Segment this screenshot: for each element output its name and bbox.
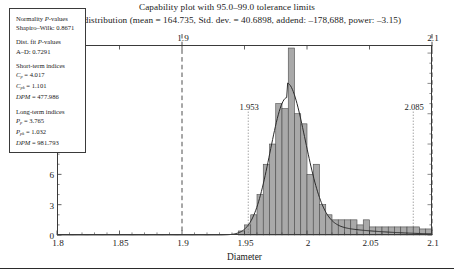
stats-group-heading: Long-term indices: [16, 107, 80, 116]
x-tick-label: 1.8: [52, 238, 63, 248]
capability-plot-figure: Capability plot with 95.0–99.0 tolerance…: [0, 0, 454, 280]
stats-line: Cp = 4.017: [16, 70, 80, 81]
spec-limit-label: 1.953: [240, 102, 259, 112]
x-tick-label: 2.1: [427, 238, 438, 248]
x-axis-label: Diameter: [57, 252, 432, 262]
stats-group-heading: Short-term indices: [16, 61, 80, 70]
stats-group-heading: Dist. fit P-values: [16, 37, 80, 46]
x-tick-label: 1.85: [112, 238, 128, 248]
stats-line: DPM = 981.793: [16, 138, 80, 147]
x-tick-label: 1.95: [237, 238, 253, 248]
y-tick-label: 6: [49, 170, 54, 180]
tolerance-limit-label: 2.1: [427, 33, 438, 43]
stats-line: Shapiro–Wilk: 0.8671: [16, 23, 80, 32]
stats-line: Cpk = 1.101: [16, 81, 80, 92]
stats-line: A–D: 0.7291: [16, 47, 80, 56]
footer-divider: [0, 268, 454, 269]
spec-limit-label: 2.085: [405, 102, 424, 112]
plot-area: Frequency 0369121518 1.81.851.91.9522.05…: [57, 45, 432, 235]
stats-line: Pp = 3.765: [16, 116, 80, 127]
stats-line: DPM = 477.986: [16, 92, 80, 101]
tolerance-limit-label: 1.9: [177, 33, 188, 43]
stats-group-heading: Normality P-values: [16, 14, 80, 23]
x-tick-label: 2: [306, 238, 311, 248]
stats-group-long-term: Long-term indicesPp = 3.765Ppk = 1.032DP…: [16, 107, 80, 148]
x-tick-label: 1.9: [177, 238, 188, 248]
stats-group-dist-fit: Dist. fit P-valuesA–D: 0.7291: [16, 37, 80, 55]
stats-group-normality: Normality P-valuesShapiro–Wilk: 0.8671: [16, 14, 80, 32]
stats-line: Ppk = 1.032: [16, 127, 80, 138]
y-tick-label: 3: [49, 201, 54, 211]
stats-group-short-term: Short-term indicesCp = 4.017Cpk = 1.101D…: [16, 61, 80, 102]
x-tick-label: 2.05: [362, 238, 378, 248]
statistics-box: Normality P-valuesShapiro–Wilk: 0.8671Di…: [9, 8, 86, 153]
